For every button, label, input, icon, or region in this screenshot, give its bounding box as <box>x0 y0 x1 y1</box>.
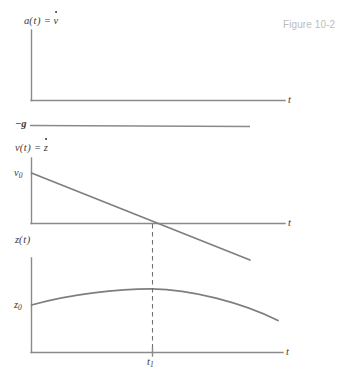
overdot-icon <box>55 11 57 13</box>
acceleration-panel-axes <box>31 30 285 101</box>
position-panel-axes <box>31 258 283 353</box>
acceleration-label-arg: (t) <box>29 15 41 26</box>
velocity-t-axis-label: t <box>288 218 291 229</box>
acceleration-label-value: v <box>53 15 58 26</box>
velocity-panel-axes <box>31 158 285 224</box>
v0-subscript: 0 <box>19 171 23 180</box>
figure-caption: Figure 10-2 <box>283 19 335 30</box>
z0-subscript: 0 <box>18 303 22 312</box>
acceleration-t-axis-label: t <box>288 95 291 106</box>
velocity-label-value: z <box>44 142 48 153</box>
velocity-axis-label: v(t) = z <box>15 143 48 154</box>
figure-drawing-canvas <box>0 0 361 378</box>
t1-tick-label: t1 <box>147 357 154 368</box>
position-t-axis-label: t <box>286 347 289 358</box>
figure-root: Figure 10-2 a(t) = v t −g v(t) = z v0 t … <box>0 0 361 378</box>
velocity-line-curve <box>32 173 251 260</box>
t1-subscript: 1 <box>150 360 154 369</box>
position-axis-label: z(t) <box>15 235 31 246</box>
position-label-arg: (t) <box>19 234 31 245</box>
overdot-icon <box>45 138 47 140</box>
acceleration-axis-label: a(t) = v <box>24 16 58 27</box>
z0-intercept-label: z0 <box>14 300 22 311</box>
v0-intercept-label: v0 <box>14 168 22 179</box>
acceleration-label-equals: = <box>44 15 51 26</box>
velocity-label-zdot: z <box>44 143 48 154</box>
acceleration-label-vdot: v <box>53 16 58 27</box>
negative-g-constant-line <box>30 126 250 127</box>
velocity-label-arg: (t) <box>20 142 32 153</box>
negative-g-label: −g <box>15 119 27 130</box>
position-parabola-curve <box>32 289 279 321</box>
